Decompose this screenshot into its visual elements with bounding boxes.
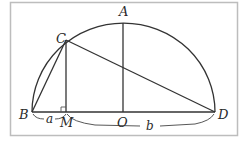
geometry-figure: A C B M O D a b	[0, 0, 240, 141]
chord-cb	[32, 40, 66, 112]
label-b-point: B	[18, 107, 29, 122]
label-a-point: A	[118, 4, 128, 19]
chord-cd	[66, 40, 215, 112]
label-c-point: C	[56, 31, 66, 46]
label-o-point: O	[117, 115, 128, 130]
brace-b	[67, 114, 214, 126]
label-d-point: D	[217, 107, 229, 122]
label-m-point: M	[59, 115, 74, 130]
label-segment-b: b	[146, 119, 154, 133]
label-segment-a: a	[46, 112, 53, 126]
right-angle-mark	[61, 107, 66, 112]
